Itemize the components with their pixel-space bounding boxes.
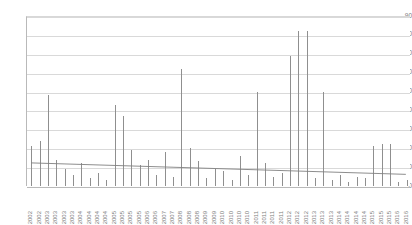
x-tick-label: 2006 (144, 211, 150, 224)
x-tick-label: 2007 (161, 211, 167, 224)
x-tick-label: 2011 (278, 211, 284, 224)
x-tick-label: 2004 (77, 211, 83, 224)
x-tick-label: 2004 (102, 211, 108, 224)
x-tick-label: 2010 (244, 211, 250, 224)
x-tick-label: 2014 (353, 211, 359, 224)
x-tick-label: 2011 (269, 211, 275, 224)
trendline-segment (31, 163, 406, 174)
x-tick-label: 2002 (36, 211, 42, 224)
x-tick-label: 2003 (69, 211, 75, 224)
x-tick-label: 2003 (44, 211, 50, 224)
x-tick-label: 2014 (344, 211, 350, 224)
x-tick-label: 2015 (386, 211, 392, 224)
x-tick-label: 2006 (152, 211, 158, 224)
x-tick-label: 2007 (169, 211, 175, 224)
x-tick-label: 2012 (294, 211, 300, 224)
x-tick-label: 2003 (61, 211, 67, 224)
x-tick-label: 2011 (253, 211, 259, 224)
x-tick-label: 2004 (86, 211, 92, 224)
plot-area (26, 16, 410, 186)
x-tick-label: 2010 (236, 211, 242, 224)
x-tick-label: 2004 (94, 211, 100, 224)
x-tick-label: 2005 (127, 211, 133, 224)
x-tick-label: 2008 (194, 211, 200, 224)
x-tick-label: 2010 (219, 211, 225, 224)
x-tick-label: 2016 (394, 211, 400, 224)
x-tick-label: 2013 (319, 211, 325, 224)
x-tick-label: 2013 (311, 211, 317, 224)
x-tick-label: 2014 (361, 211, 367, 224)
x-tick-label: 2005 (136, 211, 142, 224)
x-tick-label: 2008 (186, 211, 192, 224)
bar-chart: 9080706050403020100 20022002200320032003… (0, 0, 412, 225)
x-tick-label: 2011 (261, 211, 267, 224)
x-tick-label: 2012 (303, 211, 309, 224)
x-tick-label: 2009 (202, 211, 208, 224)
trendline (27, 17, 410, 186)
x-tick-label: 2008 (177, 211, 183, 224)
x-tick-label: 2015 (369, 211, 375, 224)
x-tick-label: 2005 (111, 211, 117, 224)
x-axis: 2002200220032003200320032004200420042004… (26, 188, 410, 224)
x-tick-label: 2009 (211, 211, 217, 224)
x-tick-label: 2010 (228, 211, 234, 224)
x-tick-label: 2002 (27, 211, 33, 224)
x-tick-label: 2013 (328, 211, 334, 224)
x-tick-label: 2012 (286, 211, 292, 224)
x-tick-label: 2003 (52, 211, 58, 224)
x-tick-label: 2016 (403, 211, 409, 224)
x-tick-label: 2014 (336, 211, 342, 224)
x-tick-label: 2015 (378, 211, 384, 224)
x-tick-label: 2005 (119, 211, 125, 224)
